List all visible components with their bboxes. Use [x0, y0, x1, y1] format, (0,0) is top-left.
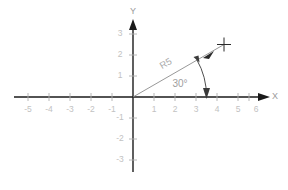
x-tick-label: 4 [215, 104, 220, 114]
coordinate-plane-diagram: -5 -4 -3 -2 -1 1 2 3 4 5 6 3 2 1 -1 -2 -… [0, 0, 288, 190]
radius-label: R5 [157, 55, 173, 71]
angle-label: 30° [172, 78, 187, 89]
y-tick-label: -1 [116, 112, 124, 122]
x-tick-label: -2 [87, 104, 95, 114]
x-tick-label: 3 [194, 104, 199, 114]
x-tick-label: -3 [66, 104, 74, 114]
y-axis-arrowhead [129, 19, 137, 30]
endpoint-cross-marker [217, 38, 231, 52]
y-tick-label: -2 [116, 133, 124, 143]
x-axis-label: X [272, 91, 278, 101]
x-tick-label: 1 [152, 104, 157, 114]
y-tick-label: 2 [118, 49, 123, 59]
x-tick-label: 5 [236, 104, 241, 114]
radius-vector-line [133, 45, 224, 98]
x-tick-label: 2 [173, 104, 178, 114]
plot-area: -5 -4 -3 -2 -1 1 2 3 4 5 6 3 2 1 -1 -2 -… [0, 0, 288, 190]
y-tick-label: 1 [118, 70, 123, 80]
radius-vector-arrowhead [203, 51, 214, 59]
x-axis-arrowhead [258, 93, 270, 101]
x-tick-label: 6 [254, 104, 259, 114]
y-tick-label: -3 [116, 154, 124, 164]
x-tick-label: -5 [24, 104, 32, 114]
x-tick-label: -1 [108, 104, 116, 114]
x-tick-label: -4 [45, 104, 53, 114]
y-tick-label: 3 [118, 28, 123, 38]
y-axis-label: Y [130, 6, 136, 16]
